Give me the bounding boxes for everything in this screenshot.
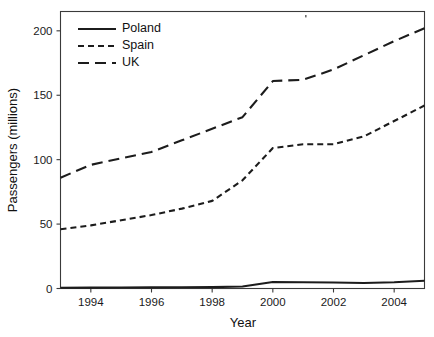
x-tick-label: 1996 (139, 296, 165, 308)
data-series-group (61, 28, 425, 287)
x-tick-label: 1994 (78, 296, 104, 308)
legend-label-spain: Spain (122, 38, 154, 52)
chart-legend: PolandSpainUK (78, 21, 161, 69)
x-axis-title: Year (230, 315, 257, 330)
scan-speck (305, 15, 307, 17)
y-axis-ticks: 050100150200 (33, 25, 60, 295)
y-tick-label: 50 (40, 218, 53, 230)
x-tick-label: 2004 (381, 296, 407, 308)
y-tick-label: 0 (46, 283, 52, 295)
line-chart-svg: 050100150200 199419961998200020022004 Po… (0, 0, 434, 337)
x-axis-ticks: 199419961998200020022004 (78, 289, 408, 308)
series-line-uk (61, 28, 425, 177)
y-tick-label: 200 (33, 25, 52, 37)
legend-label-poland: Poland (122, 21, 161, 35)
x-tick-label: 2000 (260, 296, 286, 308)
legend-label-uk: UK (122, 55, 140, 69)
y-axis-title: Passengers (millions) (5, 88, 20, 212)
series-line-poland (61, 281, 425, 288)
x-tick-label: 2002 (321, 296, 347, 308)
y-tick-label: 150 (33, 89, 52, 101)
x-tick-label: 1998 (199, 296, 225, 308)
series-line-spain (61, 106, 425, 230)
y-tick-label: 100 (33, 154, 52, 166)
chart-figure: 050100150200 199419961998200020022004 Po… (0, 0, 434, 337)
